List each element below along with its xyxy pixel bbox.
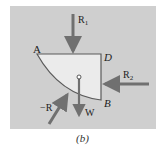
- force-label-w: W: [85, 107, 95, 118]
- point-label-b: B: [104, 97, 111, 109]
- force-label-r2: R2: [123, 69, 134, 82]
- figure-caption: (b): [0, 132, 165, 144]
- point-label-d: D: [103, 51, 112, 63]
- force-label-r1: R1: [78, 14, 89, 27]
- free-body-diagram: A D B R1 R2 W −R: [0, 0, 165, 150]
- center-of-gravity-marker: [77, 75, 81, 79]
- point-label-a: A: [33, 43, 41, 55]
- quarter-circle-body: [37, 54, 101, 100]
- force-label-neg-r: −R: [40, 102, 53, 113]
